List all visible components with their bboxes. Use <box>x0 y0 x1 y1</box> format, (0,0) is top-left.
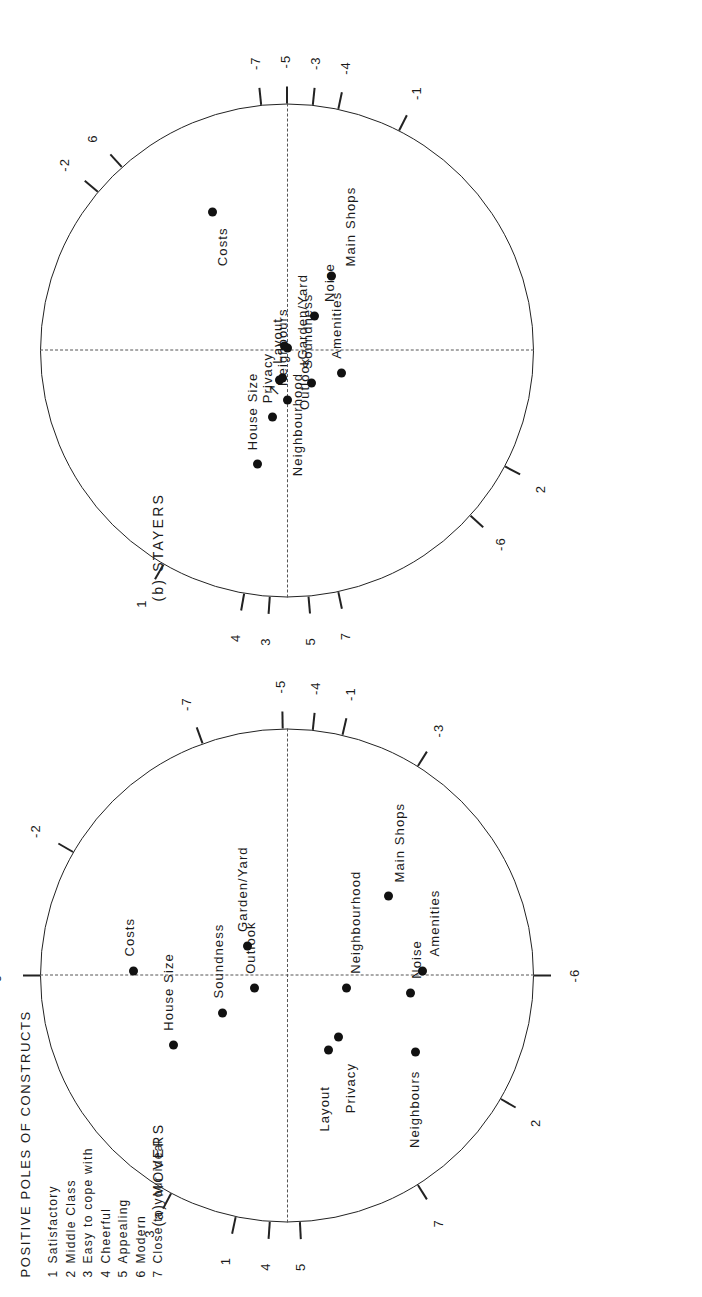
tick-mark <box>286 86 287 103</box>
tick-mark <box>259 87 262 104</box>
tick-label: 7 <box>338 631 353 639</box>
tick-mark <box>196 727 203 743</box>
tick-label: 4 <box>258 1262 273 1270</box>
tick-label: -7 <box>179 697 194 711</box>
tick-label: 1 <box>134 599 149 607</box>
tick-label: -4 <box>308 681 323 695</box>
tick-label: -2 <box>28 824 43 838</box>
tick-mark <box>312 87 315 104</box>
pointer-arrow-icon: ↗ <box>265 383 283 396</box>
data-point <box>406 988 415 997</box>
panel-movers: (a) MOVERS 314572-66-2-7-5-4-1-3 House S… <box>0 687 575 1262</box>
legend-item-number: 5 <box>115 1263 133 1277</box>
tick-mark <box>312 712 315 729</box>
data-point <box>243 941 252 950</box>
data-point-label: Noise <box>322 263 337 302</box>
tick-label: 3 <box>258 637 273 645</box>
data-point <box>250 983 259 992</box>
legend-item-number: 2 <box>63 1263 81 1277</box>
data-point-label: Main Shops <box>392 802 407 882</box>
tick-mark <box>470 515 484 527</box>
tick-mark <box>231 1216 236 1233</box>
tick-mark <box>268 596 271 613</box>
tick-mark <box>338 92 343 109</box>
tick-label: 3 <box>142 1229 157 1237</box>
figure-canvas: POSITIVE POLES OF CONSTRUCTS 1Satisfacto… <box>0 0 702 1297</box>
tick-label: -5 <box>273 679 288 693</box>
panel-stayers: (b) STAYERS 14357-62-1-4-3-5-76-2 House … <box>0 62 575 637</box>
tick-label: 5 <box>303 637 318 645</box>
data-point <box>310 311 319 320</box>
data-point-label: House Size <box>245 372 260 449</box>
legend-item-number: 7 <box>150 1263 168 1277</box>
tick-mark <box>505 465 521 474</box>
tick-mark <box>268 1221 271 1238</box>
tick-mark <box>299 1222 301 1239</box>
data-point-label: Costs <box>215 227 230 266</box>
tick-mark <box>240 593 244 610</box>
tick-mark <box>338 591 343 608</box>
tick-label: -3 <box>308 56 323 70</box>
tick-label: -3 <box>431 723 446 737</box>
tick-label: -5 <box>278 54 293 68</box>
data-point <box>327 271 336 280</box>
data-point-label: Layout <box>317 1085 332 1131</box>
tick-label: 5 <box>293 1262 308 1270</box>
data-point-label: Neighbours <box>407 1070 422 1148</box>
data-point-label: Main Shops <box>343 186 358 266</box>
tick-label: 2 <box>528 1118 543 1126</box>
legend-item-number: 3 <box>80 1263 98 1277</box>
tick-mark <box>282 711 284 728</box>
tick-mark <box>110 153 122 167</box>
legend-item-number: 1 <box>45 1263 63 1277</box>
data-point-label: Costs <box>122 917 137 956</box>
data-point-label: Garden/Yard <box>295 273 310 359</box>
tick-mark <box>84 180 98 192</box>
data-point <box>411 1047 420 1056</box>
tick-label: -2 <box>57 157 72 171</box>
data-point <box>280 341 289 350</box>
data-point <box>253 459 262 468</box>
tick-label: -1 <box>343 687 358 701</box>
tick-label: 1 <box>218 1256 233 1264</box>
legend-item-number: 6 <box>133 1263 151 1277</box>
tick-mark <box>534 974 551 975</box>
tick-label: 7 <box>431 1219 446 1227</box>
tick-label: 6 <box>0 974 4 982</box>
data-point <box>384 891 393 900</box>
data-point <box>169 1040 178 1049</box>
tick-mark <box>501 1098 516 1108</box>
tick-mark <box>23 974 40 975</box>
data-point <box>337 368 346 377</box>
data-point-label: Privacy <box>343 1062 358 1112</box>
tick-mark <box>58 842 73 852</box>
tick-mark <box>417 1184 427 1199</box>
data-point-label: Neighbourhood <box>348 870 363 973</box>
tick-label: -7 <box>248 56 263 70</box>
tick-label: -4 <box>338 61 353 75</box>
legend-item-number: 4 <box>98 1263 116 1277</box>
data-point-label: Soundness <box>211 923 226 998</box>
data-point-label: House Size <box>161 953 176 1030</box>
tick-mark <box>342 718 347 735</box>
data-point-label: Outlook <box>297 357 312 410</box>
tick-mark <box>417 751 427 766</box>
tick-label: 2 <box>533 484 548 492</box>
data-point-label: Amenities <box>427 889 442 956</box>
tick-label: 6 <box>85 134 100 142</box>
tick-mark <box>399 114 408 130</box>
tick-label: -1 <box>409 86 424 100</box>
data-point <box>275 375 284 384</box>
data-point <box>342 983 351 992</box>
data-point <box>268 412 277 421</box>
tick-label: 4 <box>228 633 243 641</box>
data-point-label: Layout <box>270 318 285 364</box>
axis-vertical-movers <box>40 974 534 975</box>
tick-label: -6 <box>493 537 508 551</box>
tick-mark <box>308 596 311 613</box>
data-point-label: Garden/Yard <box>235 846 250 932</box>
tick-label: -6 <box>567 968 582 982</box>
